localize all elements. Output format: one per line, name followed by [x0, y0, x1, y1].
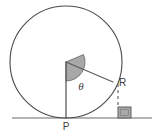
- point-label-r: R: [119, 77, 126, 88]
- angle-wedge-sector: [66, 55, 85, 81]
- geometry-canvas: θ R P: [0, 0, 161, 136]
- block-square-outer: [118, 107, 131, 118]
- geometry-figure: θ R P: [0, 0, 161, 136]
- angle-label-theta: θ: [78, 80, 84, 92]
- point-label-p: P: [63, 121, 70, 132]
